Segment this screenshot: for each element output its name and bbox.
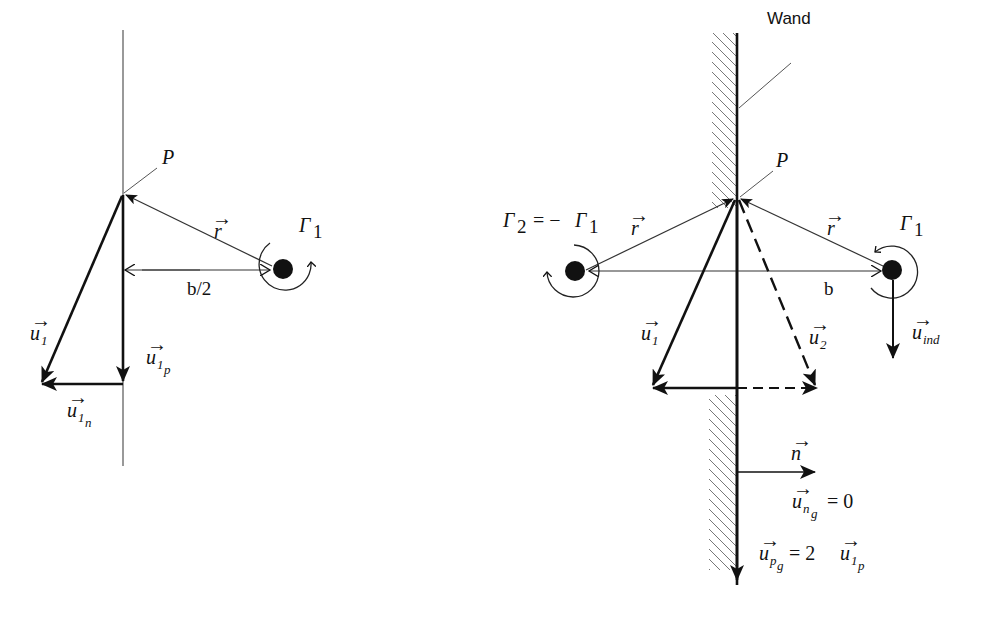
- upg-rhs-u: u: [840, 542, 850, 564]
- u1-sub: 1: [41, 333, 48, 348]
- r-vector-left: [586, 199, 733, 270]
- r-vector: [126, 195, 272, 266]
- u2-sub: 2: [820, 337, 827, 352]
- p-leader-line: [740, 171, 773, 197]
- u2-label: u: [809, 326, 819, 348]
- r-left-label: r: [631, 217, 639, 239]
- uind-label: u: [912, 321, 922, 343]
- gamma1-label: Γ: [298, 214, 312, 236]
- gamma2-rhs-sub: 1: [589, 216, 599, 237]
- vortex-1: [273, 259, 293, 279]
- point-p-label: P: [161, 146, 174, 168]
- upg-rhs-subsub: p: [857, 558, 865, 573]
- vortex-1: [882, 260, 902, 280]
- vortex-2: [565, 261, 585, 281]
- p-leader-line: [124, 168, 157, 193]
- upg-rhs-sub: 1: [851, 553, 858, 568]
- ung-sub: n: [803, 501, 810, 516]
- u1n-label: u: [67, 399, 77, 421]
- wand-leader-line: [739, 63, 791, 108]
- u1-label: u: [641, 322, 651, 344]
- upg-subsub: g: [777, 558, 784, 573]
- wall-hatching-bottom: [709, 395, 737, 570]
- left-panel: P → r b/2 Γ 1 → u 1 → u 1 p → u 1 n: [30, 30, 323, 466]
- upg-label: u: [759, 542, 769, 564]
- gamma2-equals: = −: [528, 209, 561, 231]
- uind-sub: ind: [923, 332, 940, 347]
- gamma2-label: Γ: [502, 209, 516, 231]
- u1p-label: u: [146, 346, 156, 368]
- ung-subsub: g: [811, 506, 818, 521]
- gamma1-label: Γ: [899, 212, 913, 234]
- r-right-label: r: [827, 217, 835, 239]
- u1-vector: [42, 196, 122, 382]
- ung-label: u: [792, 490, 802, 512]
- gamma1-sub: 1: [914, 219, 924, 240]
- upg-rhs: = 2: [784, 542, 815, 564]
- u1-vector: [653, 200, 735, 385]
- ung-rhs: = 0: [822, 490, 853, 512]
- u2-vector: [739, 200, 815, 385]
- distance-b-label: b: [824, 278, 834, 299]
- gamma2-rhs: Γ: [574, 209, 588, 231]
- point-p-label: P: [775, 149, 788, 171]
- gamma2-sub: 2: [517, 216, 527, 237]
- gamma1-sub: 1: [313, 221, 323, 242]
- right-panel: Wand P → r → r b Γ 2 = − Γ 1 Γ 1 → u ind: [502, 9, 940, 585]
- vortex-wall-diagram: P → r b/2 Γ 1 → u 1 → u 1 p → u 1 n Wand: [0, 0, 985, 620]
- r-vector-right: [741, 199, 883, 266]
- u1p-subsub: p: [163, 362, 171, 377]
- wall-label: Wand: [767, 9, 811, 28]
- u1-sub: 1: [652, 333, 659, 348]
- u1p-sub: 1: [157, 357, 164, 372]
- u1n-sub: 1: [78, 410, 85, 425]
- upg-sub: p: [769, 553, 777, 568]
- n-label: n: [791, 442, 801, 464]
- u1-label: u: [30, 322, 40, 344]
- r-label: r: [214, 220, 222, 242]
- wall-hatching-top: [712, 33, 737, 208]
- u1n-subsub: n: [85, 415, 92, 430]
- distance-b2-label: b/2: [187, 278, 211, 299]
